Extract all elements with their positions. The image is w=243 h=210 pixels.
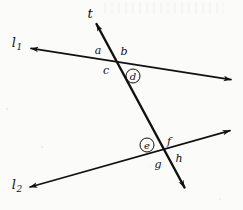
angle-label-h: h bbox=[175, 153, 182, 164]
line-label-l2-subscript: 2 bbox=[16, 184, 22, 194]
figure-canvas bbox=[0, 0, 243, 210]
line-l2 bbox=[30, 131, 230, 187]
angle-label-e: e bbox=[140, 138, 155, 153]
angle-label-f: f bbox=[167, 136, 171, 147]
line-label-l1-subscript: 1 bbox=[16, 42, 22, 52]
line-transversal-t bbox=[97, 24, 185, 188]
line-label-l2: l2 bbox=[12, 178, 22, 194]
angle-label-a: a bbox=[95, 45, 102, 56]
angle-label-c: c bbox=[103, 65, 109, 76]
line-label-l1-text: l bbox=[12, 35, 16, 50]
angle-label-g: g bbox=[154, 159, 161, 170]
angle-label-b: b bbox=[120, 46, 127, 57]
line-label-l2-text: l bbox=[12, 177, 16, 192]
line-label-l1: l1 bbox=[12, 36, 22, 52]
line-label-t-text: t bbox=[87, 6, 92, 21]
geometry-figure: l1 l2 t a b c d e f g h bbox=[0, 0, 243, 210]
angle-label-d: d bbox=[126, 69, 141, 84]
line-label-t: t bbox=[87, 7, 92, 20]
